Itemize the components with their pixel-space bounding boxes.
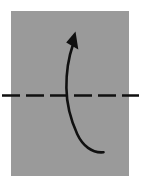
origami-fold-diagram: Gray square sheet with a horizontal dash… xyxy=(0,0,141,185)
paper-square xyxy=(11,11,129,176)
diagram-canvas xyxy=(0,0,141,185)
